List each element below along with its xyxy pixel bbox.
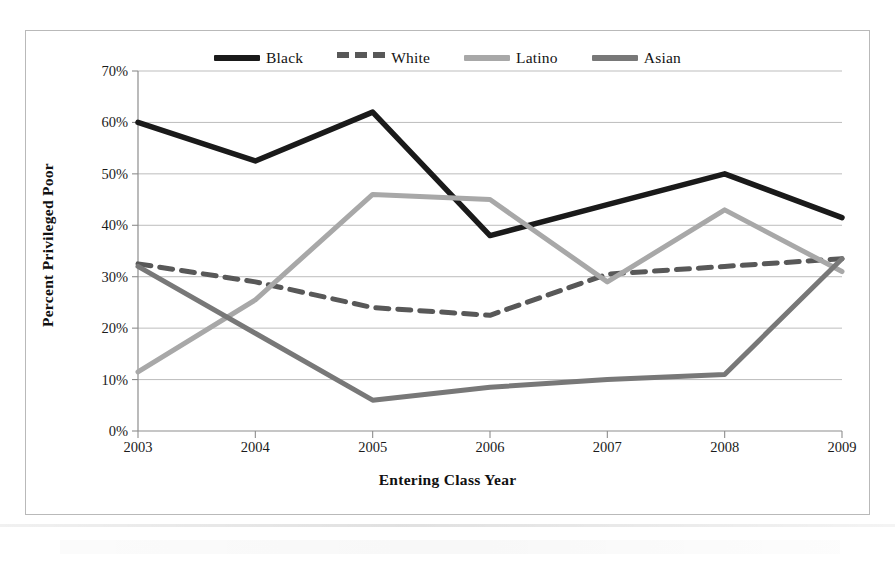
plot-svg bbox=[26, 31, 871, 516]
plot-area: Percent Privileged Poor Entering Class Y… bbox=[26, 31, 869, 514]
tick-marks bbox=[132, 71, 842, 438]
series-layer bbox=[138, 112, 842, 400]
chart-figure: Black White Latino Asian Percent Privile… bbox=[25, 30, 870, 515]
series-line-asian bbox=[138, 259, 842, 400]
gridlines bbox=[138, 71, 842, 431]
scan-artifact-smudge bbox=[60, 540, 840, 554]
scan-artifact-line bbox=[0, 524, 895, 527]
series-line-latino bbox=[138, 194, 842, 371]
